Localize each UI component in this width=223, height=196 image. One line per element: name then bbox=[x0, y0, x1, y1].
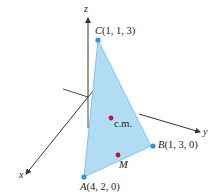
vertex-b-dot bbox=[150, 143, 155, 148]
x-axis bbox=[26, 97, 88, 174]
x-axis-label: x bbox=[19, 170, 23, 180]
point-c-label: C(1, 1, 3) bbox=[95, 26, 135, 37]
center-of-mass-label: c.m. bbox=[114, 119, 132, 130]
point-a-label: A(4, 2, 0) bbox=[80, 182, 120, 193]
y-axis bbox=[139, 114, 200, 132]
midpoint-m-label: M bbox=[119, 160, 128, 171]
midpoint-m-dot bbox=[116, 153, 121, 158]
point-c-name: C bbox=[95, 25, 102, 36]
y-axis-back bbox=[63, 89, 88, 97]
point-b-label: B(1, 3, 0) bbox=[158, 140, 198, 151]
z-axis-label: z bbox=[84, 4, 88, 14]
axes bbox=[26, 18, 93, 174]
y-axis-label: y bbox=[203, 127, 207, 137]
point-c-coords: (1, 1, 3) bbox=[102, 25, 135, 36]
vertex-c-dot bbox=[95, 37, 100, 42]
point-b-coords: (1, 3, 0) bbox=[164, 139, 197, 150]
vertex-a-dot bbox=[81, 174, 86, 179]
point-a-coords: (4, 2, 0) bbox=[86, 181, 119, 192]
center-of-mass-dot bbox=[109, 116, 114, 121]
